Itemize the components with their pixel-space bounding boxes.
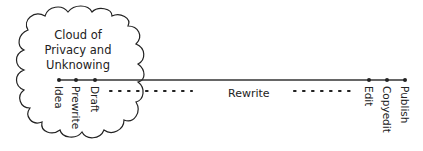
cloud-line: Unknowing [36, 58, 120, 73]
stage-label-edit: Edit [363, 86, 375, 106]
stage-label-copyedit: Copyedit [381, 86, 393, 133]
stage-label-prewrite: Prewrite [70, 86, 82, 129]
cloud-label: Cloud of Privacy and Unknowing [36, 28, 120, 73]
cloud-line: Cloud of [36, 28, 120, 43]
stage-label-idea: Idea [53, 86, 65, 109]
diagram-canvas [0, 0, 423, 151]
rewrite-label: Rewrite [228, 87, 270, 100]
cloud-line: Privacy and [36, 43, 120, 58]
stage-label-draft: Draft [89, 86, 101, 112]
stage-label-publish: Publish [399, 86, 411, 123]
